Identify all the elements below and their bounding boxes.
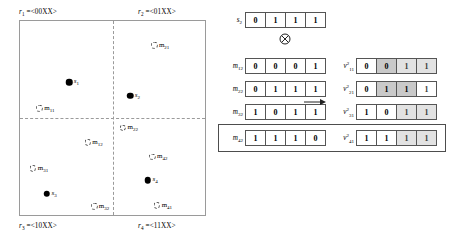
point-m31: m31 [30,165,37,172]
sensor-dot-icon [66,79,73,86]
quadrant-label-r1: r1 =<00XX> [19,8,57,17]
quadrant-label-r4-text: =<11XX> [144,222,176,230]
bit-cell: 1 [356,104,377,120]
bit-cell: 0 [285,58,306,74]
mobile-dot-icon [151,42,158,49]
row-label-s2: s2 [226,16,242,25]
bitrow-v11: 0 0 1 1 [356,58,436,74]
bit-cell: 0 [265,58,286,74]
point-label-m11: m11 [44,103,54,112]
point-label-s4: s4 [152,175,157,184]
bit-cell: 1 [305,104,326,120]
bit-cell: 1 [416,81,437,97]
point-s2: s2 [127,92,134,99]
bit-cell: 1 [265,12,286,28]
bit-cell: 1 [305,12,326,28]
point-m12: m12 [84,139,91,146]
point-m32: m32 [91,203,98,210]
mobile-dot-icon [84,139,91,146]
quadrant-label-r2-text: =<01XX> [144,8,176,16]
point-label-s1: s1 [74,77,79,86]
row-label-v31: v231 [335,107,354,118]
xor-operator-icon [279,33,291,45]
mobile-dot-icon [91,203,98,210]
bitrow-v21: 0 1 1 1 [356,81,436,97]
point-label-m21: m21 [159,40,169,49]
row-label-m12: m12 [224,62,243,71]
row-label-m32: m32 [224,108,243,117]
bit-cell: 0 [376,104,397,120]
mobile-dot-icon [154,202,161,209]
bit-cell: 0 [376,58,397,74]
bit-cell: 1 [265,81,286,97]
bit-cell: 1 [396,104,417,120]
row-label-v21: v221 [335,84,354,95]
quadrant-label-r1-text: =<00XX> [25,8,57,16]
bit-cell: 1 [416,58,437,74]
quadrant-label-r2: r2 =<01XX> [138,8,176,17]
mobile-dot-icon [119,124,126,131]
point-label-m31: m31 [38,164,48,173]
bitrow-m12: 0 0 0 1 [245,58,325,74]
bit-cell: 0 [356,81,377,97]
bit-cell: 1 [305,58,326,74]
bit-cell: 1 [305,81,326,97]
bit-cell: 1 [285,12,306,28]
bit-cell: 0 [245,12,266,28]
bitrow-v31: 1 0 1 1 [356,104,436,120]
horizontal-divider [20,118,205,119]
highlight-box [218,124,446,152]
right-arrow-icon [304,98,326,106]
point-label-m12: m12 [92,137,102,146]
point-m21: m21 [151,42,158,49]
point-label-s2: s2 [135,91,140,100]
bit-cell: 1 [245,104,266,120]
mobile-dot-icon [149,154,156,161]
sensor-dot-icon [127,92,134,99]
bit-cell: 1 [396,58,417,74]
sensor-dot-icon [144,177,151,184]
bitvector-xor-table: s2 0 1 1 1 m12 0 0 0 1 m22 [226,0,452,247]
sensor-dot-icon [44,190,51,197]
quadrant-label-r3: r3 =<10XX> [19,222,57,231]
point-label-m32: m32 [99,201,109,210]
bitrow-m32: 1 0 1 1 [245,104,325,120]
plot-area: s1 m11 m12 m21 s2 [19,20,206,216]
row-label-m22: m22 [224,85,243,94]
bit-cell: 0 [356,58,377,74]
row-label-v11: v211 [335,61,354,72]
point-label-m41: m41 [162,200,172,209]
point-s4: s4 [144,177,151,184]
bit-cell: 0 [245,58,266,74]
mobile-dot-icon [36,105,43,112]
bit-cell: 1 [285,104,306,120]
point-m11: m11 [36,105,43,112]
bit-cell: 0 [245,81,266,97]
point-m41: m41 [154,202,161,209]
point-m22: m22 [119,124,126,131]
bit-cell: 1 [416,104,437,120]
bit-cell: 1 [285,81,306,97]
quadrant-label-r4: r4 =<11XX> [138,222,176,231]
bitrow-s2: 0 1 1 1 [245,12,325,28]
point-s3: s3 [44,190,51,197]
quadrant-region-map: r1 =<00XX> r2 =<01XX> r3 =<10XX> r4 =<11… [0,0,226,247]
bit-cell: 1 [396,81,417,97]
mobile-dot-icon [30,165,37,172]
point-label-m42: m42 [157,152,167,161]
point-m42: m42 [149,154,156,161]
point-label-s3: s3 [52,189,57,198]
quadrant-label-r3-text: =<10XX> [25,222,57,230]
bit-cell: 0 [265,104,286,120]
point-s1: s1 [66,79,73,86]
figure-canvas: r1 =<00XX> r2 =<01XX> r3 =<10XX> r4 =<11… [0,0,452,247]
bitrow-m22: 0 1 1 1 [245,81,325,97]
point-label-m22: m22 [127,123,137,132]
bit-cell: 1 [376,81,397,97]
